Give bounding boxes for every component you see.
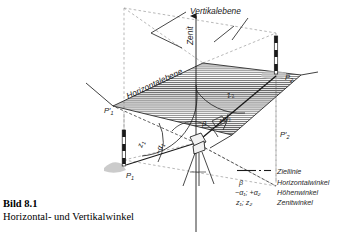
legend-label-horizontalwinkel: Horizontalwinkel: [277, 178, 329, 187]
legend-label-ziellinie: Ziellinie: [277, 167, 301, 176]
svg-text:P′1: P′1: [104, 106, 114, 116]
svg-text:z1: z1: [135, 139, 147, 150]
svg-text:−α1: −α1: [153, 142, 166, 156]
label-vertikalebene: Vertikalebene: [190, 6, 241, 16]
figure-caption-title: Bild 8.1: [3, 198, 37, 209]
svg-text:P′2: P′2: [280, 130, 290, 140]
figure-caption-subtitle: Horizontal- und Vertikalwinkel: [3, 211, 134, 222]
svg-text:β: β: [201, 119, 207, 128]
point-p2-group: [261, 36, 286, 182]
figure-root: Horizontalebene Vertikalebene Zenit P′1 …: [0, 0, 364, 235]
legend-label-zenitwinkel: Zenitwinkel: [277, 198, 313, 207]
legend-symbol-beta: β: [239, 178, 243, 187]
svg-text:P1: P1: [126, 171, 134, 181]
svg-text:Vertikalebene: Vertikalebene: [190, 6, 241, 16]
legend-label-hoehenwinkel: Höhenwinkel: [277, 188, 318, 197]
tripod-legs: [183, 152, 214, 186]
theodolite-instrument: [183, 133, 214, 186]
point-p1-group: [104, 114, 126, 173]
label-zenit: Zenit: [185, 26, 195, 46]
legend-symbol-alpha: −α₁; +α₂: [235, 188, 261, 197]
legend-symbol-z: z₁; z₂: [236, 198, 252, 207]
vertical-plane-leaders: [151, 12, 248, 48]
svg-text:Zenit: Zenit: [185, 26, 195, 46]
